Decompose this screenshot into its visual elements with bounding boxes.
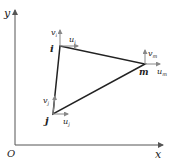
u-m-label: um (157, 67, 167, 77)
node-m-label: m (139, 67, 149, 77)
v-j-label: vj (43, 96, 50, 107)
node-i-label: i (50, 43, 54, 54)
v-i-label: vi (51, 28, 58, 38)
y-axis-label: y (3, 7, 11, 20)
u-j-label: uj (63, 117, 70, 128)
x-axis-label: x (155, 148, 162, 161)
node-j-label: j (43, 115, 49, 126)
triangular-element-diagram: y x O vi ui i vm um m vj uj j (0, 0, 173, 165)
diagram-svg: y x O vi ui i vm um m vj uj j (0, 0, 173, 165)
u-i-label: ui (69, 35, 76, 45)
origin-label: O (7, 148, 15, 159)
v-m-label: vm (148, 49, 158, 59)
triangle-element (53, 46, 145, 114)
